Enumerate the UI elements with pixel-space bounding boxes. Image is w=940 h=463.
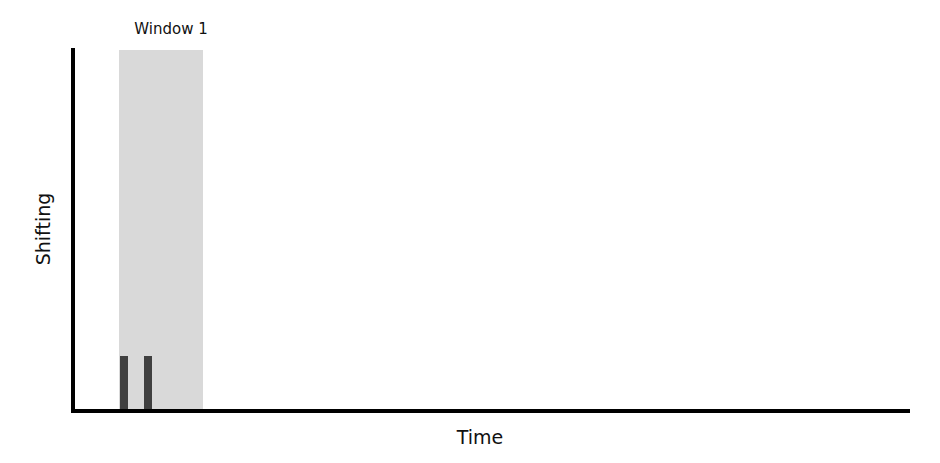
y-axis-label: Shifting bbox=[32, 174, 54, 284]
shift-event-bar-2 bbox=[144, 356, 152, 410]
shift-event-bar-1 bbox=[120, 356, 128, 410]
window-1-region bbox=[119, 50, 203, 410]
x-axis-label: Time bbox=[430, 426, 530, 448]
x-axis bbox=[71, 409, 910, 413]
y-axis bbox=[71, 48, 75, 413]
window-1-label: Window 1 bbox=[119, 20, 223, 38]
